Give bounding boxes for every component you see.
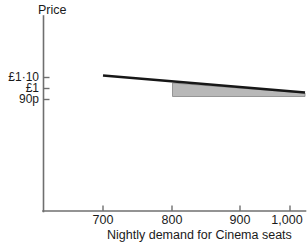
demand-curve-chart: Price £1·10 £1 90p 700 800 900 1,000 Nig… [0,0,307,244]
chart-plot-area [0,0,307,244]
x-tick-label: 800 [149,214,195,227]
x-tick-label: 900 [217,214,263,227]
x-tick-label: 700 [80,214,126,227]
x-axis-title: Nightly demand for Cinema seats [107,229,292,242]
y-axis-title: Price [38,4,66,17]
y-tick-label: 90p [0,93,39,105]
x-tick-label: 1,000 [264,214,307,227]
